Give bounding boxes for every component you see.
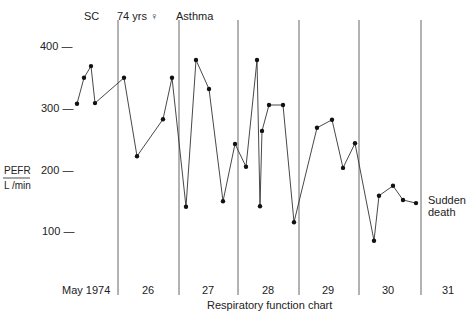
data-point <box>233 142 237 146</box>
ytick-100: 100 — <box>42 225 74 237</box>
data-point <box>353 141 357 145</box>
period-label-28: 28 <box>262 284 274 296</box>
ytick-200: 200 — <box>41 164 73 176</box>
period-label-31: 31 <box>442 284 454 296</box>
data-point <box>161 117 165 121</box>
data-point <box>330 118 334 122</box>
chart-title: Respiratory function chart <box>207 299 332 311</box>
ytick-300: 300 — <box>41 102 73 114</box>
period-label-26: 26 <box>142 284 154 296</box>
y-axis-label-top: PEFR <box>4 165 31 176</box>
period-label-27: 27 <box>202 284 214 296</box>
data-point <box>255 58 259 62</box>
data-point <box>93 101 97 105</box>
data-point <box>281 103 285 107</box>
data-point <box>89 64 93 68</box>
period-dividers <box>118 20 421 295</box>
period-label-29: 29 <box>322 284 334 296</box>
data-point <box>184 205 188 209</box>
pefr-line <box>77 60 416 241</box>
data-point <box>391 184 395 188</box>
data-point <box>207 87 211 91</box>
data-point <box>401 198 405 202</box>
period-label-may-1974: May 1974 <box>62 284 110 296</box>
annotation-sc: SC <box>84 10 99 22</box>
data-point <box>194 58 198 62</box>
data-point <box>267 103 271 107</box>
ytick-400: 400 — <box>40 40 72 52</box>
data-point <box>221 199 225 203</box>
pefr-markers <box>75 58 418 243</box>
data-point <box>260 129 264 133</box>
data-point <box>372 239 376 243</box>
data-point <box>75 102 79 106</box>
period-label-30: 30 <box>382 284 394 296</box>
annotation-sudden: Sudden <box>428 194 466 206</box>
data-point <box>414 201 418 205</box>
data-point <box>377 194 381 198</box>
data-point <box>341 166 345 170</box>
data-point <box>122 76 126 80</box>
data-point <box>82 76 86 80</box>
annotation-death: death <box>428 206 456 218</box>
data-point <box>170 76 174 80</box>
data-point <box>258 204 262 208</box>
y-axis-label-bottom: L /min <box>4 180 31 191</box>
annotation-age-sex: 74 yrs ♀ <box>117 10 158 22</box>
data-point <box>315 126 319 130</box>
data-point <box>292 220 296 224</box>
data-point <box>135 154 139 158</box>
data-point <box>244 165 248 169</box>
annotation-asthma: Asthma <box>176 10 213 22</box>
